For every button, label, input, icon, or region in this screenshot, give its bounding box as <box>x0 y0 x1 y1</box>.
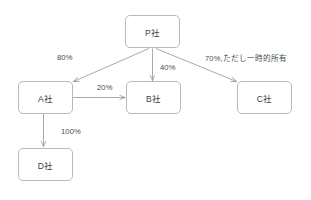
node-d[interactable]: D社 <box>18 148 73 181</box>
edge-label-p-to-b: 40% <box>160 63 176 72</box>
node-a[interactable]: A社 <box>18 81 73 114</box>
edge-label-p-to-c: 70%,ただし一時的所有 <box>205 52 288 63</box>
node-d-label: D社 <box>38 159 54 171</box>
node-p-label: P社 <box>145 26 160 38</box>
node-p[interactable]: P社 <box>125 15 180 48</box>
node-b[interactable]: B社 <box>126 81 181 114</box>
node-b-label: B社 <box>146 92 161 104</box>
edge-label-a-to-b: 20% <box>97 83 113 92</box>
edge-p-to-a <box>74 49 150 82</box>
node-a-label: A社 <box>38 92 53 104</box>
ownership-diagram: P社 A社 B社 C社 D社 80% 40% 70%,ただし一時的所有 20% … <box>0 0 311 200</box>
node-c[interactable]: C社 <box>237 81 292 114</box>
node-c-label: C社 <box>257 92 273 104</box>
edge-label-a-to-d: 100% <box>61 127 81 136</box>
edge-label-p-to-a: 80% <box>57 53 73 62</box>
